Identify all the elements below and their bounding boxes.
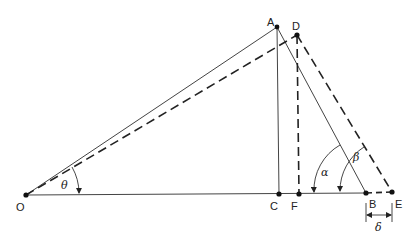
point-C	[276, 191, 281, 196]
line-OD	[26, 35, 297, 195]
label-C: C	[270, 200, 278, 212]
beta-arc	[340, 147, 364, 191]
line-AC	[277, 27, 279, 194]
label-theta: θ	[61, 179, 68, 192]
baseline-BE	[366, 192, 392, 193]
line-OA	[26, 27, 277, 195]
label-O: O	[16, 201, 25, 213]
label-beta: β	[352, 151, 359, 164]
label-F: F	[291, 200, 298, 212]
geometry-diagram: O A D C F B E θ α β δ	[0, 0, 417, 240]
point-F	[296, 191, 301, 196]
theta-arc	[72, 167, 79, 193]
point-D	[294, 32, 299, 37]
label-A: A	[267, 16, 275, 28]
label-D: D	[292, 20, 300, 32]
point-B	[363, 190, 368, 195]
label-delta: δ	[375, 221, 382, 234]
line-DE	[297, 35, 392, 192]
line-DF	[297, 35, 299, 194]
label-alpha: α	[321, 166, 329, 179]
baseline-OB	[26, 193, 366, 195]
label-B: B	[369, 198, 376, 210]
label-E: E	[395, 198, 402, 210]
point-A	[275, 25, 280, 30]
point-O	[23, 192, 28, 197]
point-E	[389, 189, 394, 194]
